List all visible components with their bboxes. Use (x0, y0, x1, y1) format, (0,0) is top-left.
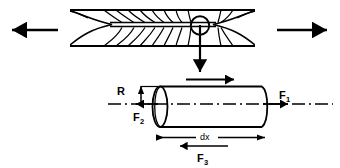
force-f3-subscript: 3 (204, 158, 208, 167)
length-dimension: dx (156, 130, 265, 142)
stress-lines-lower (104, 28, 191, 47)
radius-label: R (117, 85, 125, 97)
top-view-group (12, 10, 327, 72)
element-view-group: F 1 F 2 R dx F 3 (108, 80, 333, 168)
figure-root: F 1 F 2 R dx F 3 (0, 0, 340, 167)
force-f3-label: F (197, 152, 204, 164)
force-f1-label: F (279, 89, 286, 101)
cylinder-body (153, 86, 268, 127)
fiber-left-taper (70, 11, 112, 45)
length-label: dx (200, 132, 210, 142)
force-f2-subscript: 2 (140, 117, 144, 126)
force-f1-subscript: 1 (286, 95, 290, 104)
stress-transfer-diagram: F 1 F 2 R dx F 3 (0, 0, 340, 167)
stress-lines-upper (104, 10, 191, 23)
force-f2-label: F (133, 111, 140, 123)
